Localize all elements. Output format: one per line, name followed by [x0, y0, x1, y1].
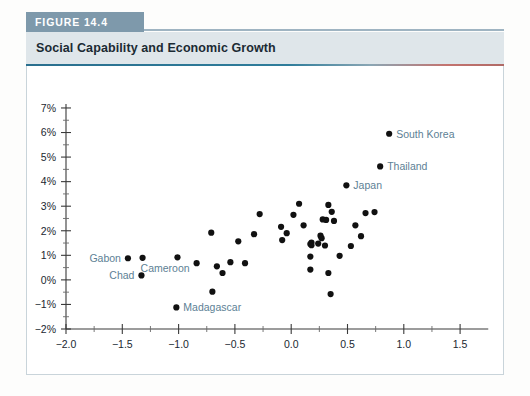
figure-title-band: Social Capability and Economic Growth	[26, 32, 504, 64]
title-underline-divider	[26, 64, 504, 66]
figure-container: FIGURE 14.4 Social Capability and Econom…	[26, 12, 504, 375]
figure-number-label: FIGURE 14.4	[35, 16, 108, 28]
figure-number-tab: FIGURE 14.4	[26, 12, 144, 32]
tab-rule-divider	[144, 29, 504, 31]
figure-title: Social Capability and Economic Growth	[36, 41, 276, 55]
plot-panel	[26, 66, 504, 375]
